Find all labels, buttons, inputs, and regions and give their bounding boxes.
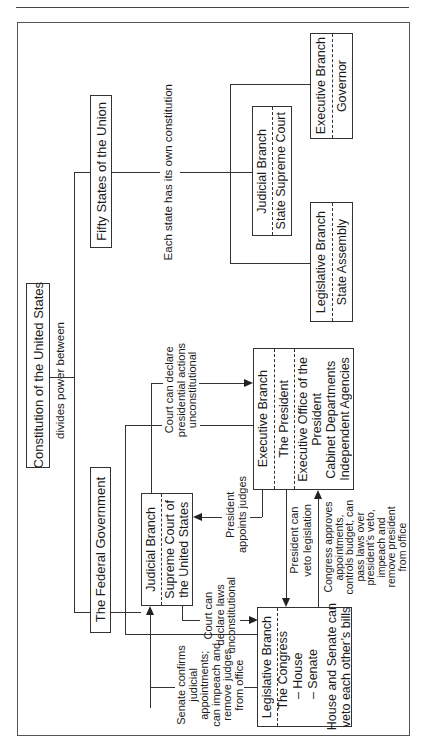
connector <box>151 383 163 384</box>
connector <box>200 425 254 426</box>
connector <box>150 687 175 688</box>
connector <box>180 172 252 173</box>
connector <box>286 490 287 602</box>
check-president-appoints: Presidentappoints judges <box>222 465 250 565</box>
constitution-box: Constitution of the United States <box>26 283 50 468</box>
check-senate-confirms: Senate confirmsjudicialappointments;can … <box>175 640 245 730</box>
connector <box>262 490 263 517</box>
divides-power-label: divides power between <box>53 300 69 460</box>
federal-government-box: The Federal Government <box>90 467 111 633</box>
connector <box>230 84 310 85</box>
connector <box>150 612 151 708</box>
check-congress-powers: Congress approvesappointments,controls b… <box>320 490 410 605</box>
connector <box>50 377 74 378</box>
connector <box>250 517 262 518</box>
connector <box>74 612 90 613</box>
connector <box>318 496 319 607</box>
federal-executive-box: Executive Branch The President Executive… <box>253 348 354 490</box>
state-executive-box: Executive Branch Governor <box>310 33 353 139</box>
check-court-presidential: Court can declarepresidential actionsunc… <box>163 330 199 450</box>
arrow-left-icon <box>193 513 202 521</box>
connector <box>111 612 141 613</box>
congress-details: The Congress – House – Senate House and … <box>277 608 351 726</box>
check-president-veto: President canveto legislation <box>288 490 314 590</box>
connector <box>151 383 152 493</box>
constitution-title: Constitution of the United States <box>31 282 46 468</box>
federal-judicial-box: Judicial Branch Supreme Court ofthe Unit… <box>141 493 193 606</box>
connector <box>230 263 310 264</box>
state-judicial-box: Judicial Branch State Supreme Court <box>252 106 292 236</box>
arrow-up-icon <box>146 606 154 615</box>
arrow-right-icon <box>244 379 253 387</box>
federal-legislative-box: Legislative Branch The Congress – House … <box>257 607 352 727</box>
connector <box>182 620 200 621</box>
connector <box>112 172 160 173</box>
connector <box>244 687 257 688</box>
connector-spine <box>74 172 75 612</box>
connector <box>199 383 245 384</box>
page-top-rule <box>16 7 409 8</box>
connector <box>125 425 126 635</box>
connector <box>200 517 222 518</box>
connector <box>125 425 162 426</box>
state-legislative-box: Legislative Branch State Assembly <box>310 202 353 322</box>
arrow-down-icon <box>282 598 290 607</box>
fifty-states-box: Fifty States of the Union <box>90 95 112 248</box>
connector <box>182 606 183 620</box>
connector <box>74 172 90 173</box>
state-constitution-note: Each state has its own constitution <box>158 85 180 260</box>
connector <box>230 84 231 264</box>
